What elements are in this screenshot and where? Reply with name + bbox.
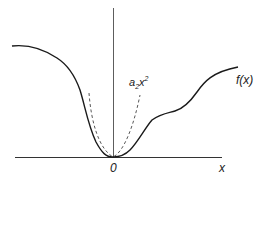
curve-label: f(x): [236, 74, 253, 86]
origin-label: 0: [110, 162, 117, 174]
approx-label: a2x2: [129, 75, 148, 90]
function-curve: [12, 46, 238, 157]
x-axis-label: x: [219, 162, 225, 174]
